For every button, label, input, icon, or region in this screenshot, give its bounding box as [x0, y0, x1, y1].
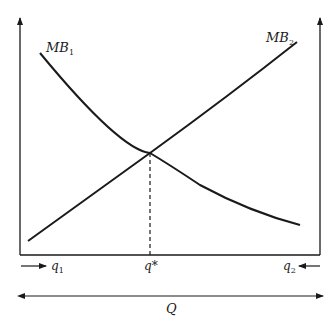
- q1-label: q1: [51, 259, 64, 275]
- total-q-left-arrowhead-icon: [17, 293, 25, 299]
- mb-diagram: MB1 MB2 q1 q* q2 Q: [0, 0, 336, 328]
- mb2-label: MB2: [265, 30, 294, 47]
- mb1-label: MB1: [45, 40, 74, 57]
- q2-label: q2: [283, 259, 296, 275]
- total-q-label: Q: [166, 301, 177, 316]
- q-star-label: q*: [144, 259, 158, 273]
